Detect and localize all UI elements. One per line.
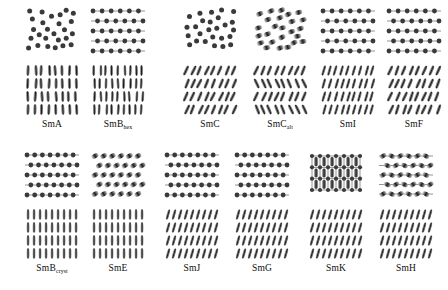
top-view-smc (181, 6, 239, 58)
side-view-sma (22, 64, 82, 116)
phase-label-smb-hex: SmBhex (104, 119, 132, 130)
phase-label-main-smg: SmG (252, 263, 272, 273)
phase-panel-smj: SmJ (162, 150, 222, 273)
side-view-smc (180, 64, 240, 116)
phase-panel-sma: SmA (22, 6, 82, 129)
phase-panel-smi: SmI (318, 6, 378, 129)
side-view-smi (318, 64, 378, 116)
phase-panel-smh: SmH (376, 150, 436, 273)
top-view-smc-alt (251, 6, 309, 58)
phase-label-main-sme: SmE (108, 263, 127, 273)
phase-panel-smc: SmC (180, 6, 240, 129)
phase-label-main-smb-hex: SmB (104, 119, 124, 129)
top-view-smg (233, 150, 291, 202)
phase-label-smi: SmI (340, 119, 356, 129)
phase-label-main-smh: SmH (396, 263, 416, 273)
side-view-smk (306, 208, 366, 260)
phase-label-main-smc-alt: SmC (267, 119, 287, 129)
phase-panel-smg: SmG (232, 150, 292, 273)
phase-label-main-smk: SmK (326, 263, 346, 273)
phase-panel-smb-cryst: SmBcryst (22, 150, 82, 274)
side-view-smg (232, 208, 292, 260)
top-view-smh (377, 150, 435, 202)
top-view-smf (385, 6, 443, 58)
phase-panel-smb-hex: SmBhex (88, 6, 148, 130)
side-view-smb-cryst (22, 208, 82, 260)
smectic-phases-figure: SmASmBhexSmCSmCaltSmISmFSmBcrystSmESmJSm… (0, 0, 448, 290)
side-view-smb-hex (88, 64, 148, 116)
phase-label-smj: SmJ (184, 263, 201, 273)
side-view-smf (384, 64, 444, 116)
phase-label-main-sma: SmA (42, 119, 62, 129)
phase-label-sme: SmE (108, 263, 127, 273)
phase-label-smc-alt: SmCalt (267, 119, 293, 130)
phase-label-sub-smb-cryst: cryst (56, 268, 68, 274)
top-view-smj (163, 150, 221, 202)
top-view-sme (89, 150, 147, 202)
top-view-smb-hex (89, 6, 147, 58)
phase-panel-sme: SmE (88, 150, 148, 273)
side-view-smj (162, 208, 222, 260)
phase-panel-smc-alt: SmCalt (250, 6, 310, 130)
phase-label-sub-smc-alt: alt (287, 124, 293, 130)
phase-label-smg: SmG (252, 263, 272, 273)
phase-label-main-smf: SmF (405, 119, 424, 129)
phase-label-main-smj: SmJ (184, 263, 201, 273)
top-view-smk (307, 150, 365, 202)
side-view-smh (376, 208, 436, 260)
phase-label-main-smi: SmI (340, 119, 356, 129)
phase-label-sma: SmA (42, 119, 62, 129)
phase-label-main-smc: SmC (200, 119, 220, 129)
phase-label-sub-smb-hex: hex (123, 124, 132, 130)
phase-label-smh: SmH (396, 263, 416, 273)
side-view-smc-alt (250, 64, 310, 116)
phase-label-smb-cryst: SmBcryst (36, 263, 67, 274)
top-view-smb-cryst (23, 150, 81, 202)
phase-label-smc: SmC (200, 119, 220, 129)
side-view-sme (88, 208, 148, 260)
top-view-smi (319, 6, 377, 58)
phase-panel-smk: SmK (306, 150, 366, 273)
top-view-sma (23, 6, 81, 58)
phase-label-smk: SmK (326, 263, 346, 273)
phase-label-main-smb-cryst: SmB (36, 263, 56, 273)
phase-label-smf: SmF (405, 119, 424, 129)
phase-panel-smf: SmF (384, 6, 444, 129)
